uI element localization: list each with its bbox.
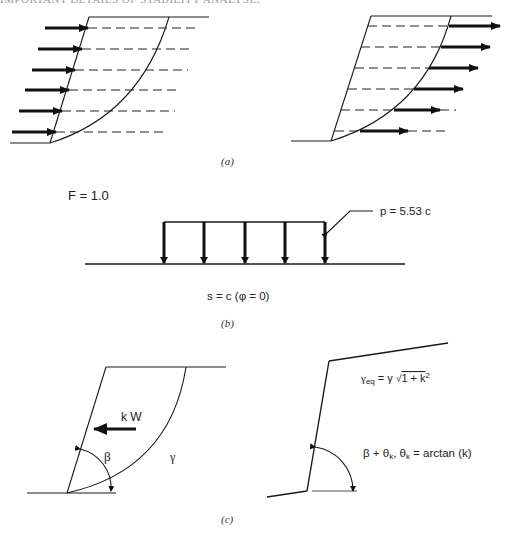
slope-angle-label: β bbox=[104, 449, 111, 464]
factor-of-safety-label: F = 1.0 bbox=[68, 188, 109, 203]
rotated-slope-face bbox=[307, 361, 329, 491]
angle-formula: β + θk, θk = arctan (k) bbox=[363, 447, 472, 461]
rotated-angle-arc-icon bbox=[315, 447, 353, 491]
caption-b: (b) bbox=[221, 317, 234, 330]
equivalent-unit-weight-formula: γeq = γ √1 + k2 bbox=[360, 371, 431, 386]
seismic-force-label: k W bbox=[121, 410, 142, 424]
rotated-crest-surface bbox=[329, 343, 448, 361]
figure-svg: (a) F = 1.0 p = 5.53 c s = c (φ = 0) (b)… bbox=[0, 0, 514, 534]
angle-formula-part2: , θ bbox=[393, 447, 406, 459]
slip-surface-curve bbox=[331, 16, 451, 141]
unit-weight-label: γ bbox=[169, 450, 176, 464]
slope-face bbox=[331, 16, 371, 141]
panel-b-footing-load bbox=[85, 211, 405, 264]
panel-c-right-slope bbox=[267, 343, 448, 497]
panel-a-right-slope bbox=[291, 16, 500, 141]
panel-c-left-slope bbox=[27, 367, 226, 493]
slope-face bbox=[50, 17, 89, 143]
caption-a: (a) bbox=[221, 155, 234, 168]
caption-c: (c) bbox=[221, 513, 234, 526]
rotated-toe-ground bbox=[267, 491, 307, 497]
angle-formula-part1: β + θ bbox=[363, 447, 389, 459]
strength-label: s = c (φ = 0) bbox=[207, 290, 270, 302]
panel-a-left-slope bbox=[10, 17, 209, 143]
load-leader-line bbox=[327, 211, 373, 233]
slip-surface-curve bbox=[50, 17, 169, 143]
formula-subscript-eq: eq bbox=[366, 377, 375, 386]
load-label: p = 5.53 c bbox=[380, 205, 431, 217]
figure-canvas: IMPORTANT DETAILS OF STABILITY ANALYSES … bbox=[0, 0, 514, 534]
formula-equals-gamma: = γ bbox=[375, 372, 396, 384]
angle-formula-part3: = arctan (k) bbox=[410, 447, 472, 459]
formula-radicand: 1 + k bbox=[401, 372, 426, 384]
formula-superscript: 2 bbox=[426, 371, 431, 380]
